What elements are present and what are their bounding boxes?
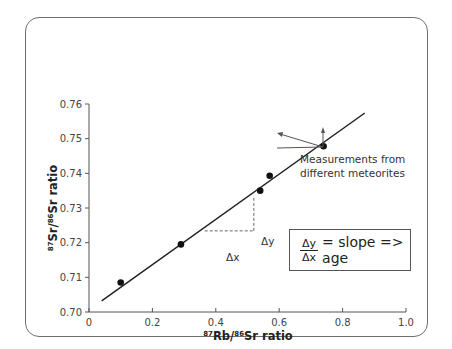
fraction: Δy Δx [300, 237, 318, 264]
y-tick-label: 0.73 [60, 203, 82, 214]
fraction-numerator: Δy [300, 237, 318, 251]
y-axis: 0.700.710.720.730.740.750.76 [60, 99, 89, 318]
data-point [117, 279, 124, 286]
fraction-denominator: Δx [300, 251, 318, 264]
y-tick-label: 0.70 [60, 307, 82, 318]
x-tick-label: 0.8 [335, 317, 351, 328]
isochron-line [102, 113, 365, 301]
callout-arrows [277, 127, 325, 148]
x-tick-label: 1.0 [398, 317, 414, 328]
x-tick-label: 0.2 [144, 317, 160, 328]
slope-formula-box: Δy Δx = slope => age [289, 229, 411, 271]
delta-y-label: Δy [261, 235, 274, 247]
x-axis-label: 87Rb/86Sr ratio [203, 329, 293, 343]
data-point [257, 187, 264, 194]
x-tick-label: 0 [86, 317, 92, 328]
y-axis-label: 87Sr/86Sr ratio [46, 165, 60, 251]
callout-line-2: different meteorites [300, 167, 405, 179]
y-tick-label: 0.71 [60, 272, 82, 283]
y-tick-label: 0.72 [60, 237, 82, 248]
data-point [178, 241, 185, 248]
y-tick-label: 0.74 [60, 168, 82, 179]
x-tick-label: 0.6 [271, 317, 287, 328]
delta-guides [205, 197, 254, 231]
x-axis: 00.20.40.60.81.0 [86, 308, 414, 328]
data-point [266, 172, 273, 179]
y-tick-label: 0.76 [60, 99, 82, 110]
delta-x-label: Δx [226, 251, 239, 263]
callout-line-1: Measurements from [300, 153, 405, 165]
chart-svg: 0.700.710.720.730.740.750.76 00.20.40.60… [0, 0, 452, 349]
x-tick-label: 0.4 [208, 317, 224, 328]
formula-text: = slope => age [322, 234, 410, 266]
y-tick-label: 0.75 [60, 133, 82, 144]
